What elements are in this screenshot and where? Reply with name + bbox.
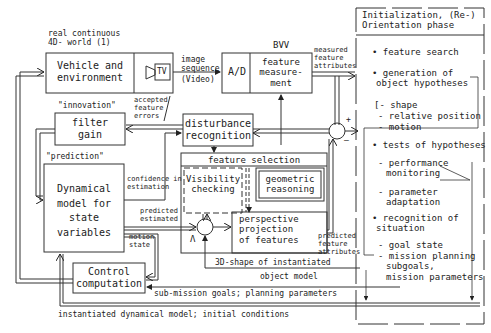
3d-shape-label: 3D-shape of instantiated (215, 258, 331, 267)
motion-state-label: motion state (129, 233, 154, 249)
dr-2: recognition (183, 130, 253, 142)
mis-1: - mission planning (378, 251, 484, 261)
gen-1: • generation of (372, 68, 468, 78)
perspective-projection-box: perspective projection of features (239, 214, 299, 245)
plus-sign: + (346, 115, 351, 124)
innovation-label: "innovation" (58, 101, 116, 110)
gr-2: reasoning (259, 184, 321, 194)
image-sequence-label: image sequence (Video) (181, 55, 220, 85)
pe-1: predicted (140, 207, 178, 215)
panel-title-2: Orientation phase (362, 20, 476, 30)
ma-1: measured (314, 46, 356, 54)
param-1: - parameter (378, 187, 440, 197)
dm-3: state (44, 211, 124, 226)
world-label: real continuous 4D- world (1) (48, 29, 120, 47)
panel-shape: [- shape (374, 100, 417, 110)
world-label-line2: 4D- world (1) (48, 38, 120, 47)
tv-camera-icon: TV (157, 67, 167, 76)
image-seq-3: (Video) (181, 75, 220, 84)
panel-title: Initialization, (Re-) Orientation phase (362, 10, 476, 31)
image-seq-1: image (181, 55, 220, 64)
ae-1: accepted (134, 96, 168, 104)
pe-2: estimated (140, 215, 178, 223)
disturbance-recognition-box: disturbance recognition (183, 118, 253, 141)
dm-1: Dynamical (44, 182, 124, 197)
environment-label: environment (48, 72, 132, 84)
geometric-reasoning-box: geometric reasoning (259, 174, 321, 195)
panel-generation: • generation of object hypotheses (372, 68, 468, 89)
panel-performance: - performance monitoring (378, 158, 448, 179)
filter-gain-box: filter gain (55, 117, 125, 140)
object-model-label: object model (260, 272, 318, 281)
rec-2: situation (372, 223, 459, 233)
perf-2: monitoring (378, 168, 448, 178)
gen-2: object hypotheses (372, 78, 468, 88)
image-seq-2: sequence (181, 64, 220, 73)
panel-goal-state: - goal state (378, 240, 443, 250)
submission-goals-label: sub-mission goals; planning parameters (154, 289, 337, 298)
dm-4: variables (44, 226, 124, 241)
conf-2: estimation (127, 183, 182, 191)
control-computation-box: Control computation (73, 266, 145, 289)
ae-2: feature (134, 104, 168, 112)
vehicle-environment-box: Vehicle and environment (48, 60, 132, 83)
ms-2: state (129, 241, 154, 249)
panel-feature-search: • feature search (372, 47, 459, 57)
panel-recognition: • recognition of situation (372, 213, 459, 234)
fm-3: ment (251, 78, 311, 88)
perf-1: - performance (378, 158, 448, 168)
vc-2: checking (184, 184, 242, 194)
vehicle-label: Vehicle and (48, 60, 132, 72)
world-label-line1: real continuous (48, 29, 120, 38)
panel-tests: • tests of hypotheses (372, 140, 486, 150)
fg-2: gain (55, 129, 125, 141)
minus-sign: – (344, 136, 349, 145)
accepted-errors-label: accepted feature errors (134, 96, 168, 120)
mis-3: mission parameters (378, 272, 484, 282)
visibility-checking-box: Visibility checking (184, 174, 242, 195)
conf-1: confidence in (127, 175, 182, 183)
pp-3: of features (239, 235, 299, 245)
fm-2: measure- (251, 67, 311, 77)
panel-relpos: - relative position (378, 111, 481, 121)
dm-2: model for (44, 197, 124, 212)
prediction-label: "prediction" (46, 152, 104, 161)
predicted-estimated-label: predicted estimated (140, 207, 178, 223)
gr-1: geometric (259, 174, 321, 184)
vc-1: Visibility (184, 174, 242, 184)
param-2: adaptation (378, 197, 440, 207)
ae-3: errors (134, 112, 168, 120)
pp-2: projection (239, 224, 299, 234)
pp-1: perspective (239, 214, 299, 224)
cc-2: computation (73, 278, 145, 290)
dynamical-model-box: Dynamical model for state variables (44, 182, 124, 240)
tv-label: TV (157, 67, 167, 76)
block-diagram: real continuous 4D- world (1) Vehicle an… (0, 0, 491, 333)
instantiated-model-label: instantiated dynamical model; initial co… (58, 310, 289, 319)
dr-1: disturbance (183, 118, 253, 130)
pa-3: attributes (318, 248, 360, 256)
panel-parameter: - parameter adaptation (378, 187, 440, 208)
ms-1: motion (129, 233, 154, 241)
rec-1: • recognition of (372, 213, 459, 223)
cc-1: Control (73, 266, 145, 278)
measured-attributes-label: measured feature attributes (314, 46, 356, 70)
ma-2: feature (314, 54, 356, 62)
pa-2: feature (318, 240, 360, 248)
confidence-label: confidence in estimation (127, 175, 182, 191)
lambda-symbol: Λ (190, 234, 195, 244)
panel-mission: - mission planning subgoals, mission par… (378, 251, 484, 282)
feature-selection-title: feature selection (181, 155, 327, 165)
feature-measurement-box: feature measure- ment (251, 57, 311, 88)
bvv-label: BVV (273, 40, 289, 50)
fg-1: filter (55, 117, 125, 129)
panel-motion: - motion (378, 122, 421, 132)
predicted-attributes-label: predicted feature attributes (318, 232, 360, 256)
mis-2: subgoals, (378, 261, 484, 271)
ma-3: attributes (314, 62, 356, 70)
ad-converter-label: A/D (228, 66, 246, 78)
fm-1: feature (251, 57, 311, 67)
panel-title-1: Initialization, (Re-) (362, 10, 476, 20)
pa-1: predicted (318, 232, 360, 240)
